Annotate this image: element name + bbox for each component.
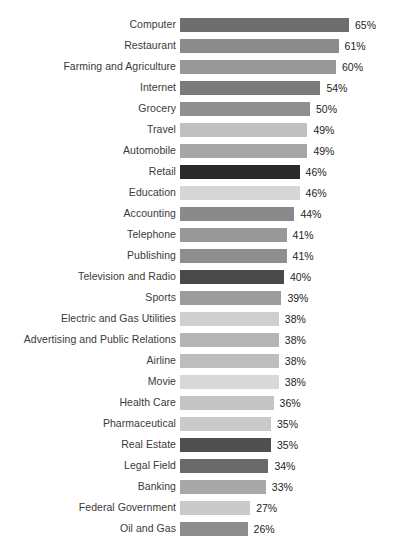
category-label: Grocery bbox=[0, 98, 180, 119]
value-label: 61% bbox=[339, 39, 366, 53]
bar-area: 65% bbox=[180, 14, 398, 35]
category-label: Automobile bbox=[0, 140, 180, 161]
chart-row: Automobile49% bbox=[0, 140, 398, 161]
bar bbox=[180, 396, 274, 410]
chart-row: Restaurant61% bbox=[0, 35, 398, 56]
value-label: 49% bbox=[307, 144, 334, 158]
category-label: Legal Field bbox=[0, 455, 180, 476]
chart-row: Accounting44% bbox=[0, 203, 398, 224]
bar bbox=[180, 522, 248, 536]
bar bbox=[180, 375, 279, 389]
value-label: 27% bbox=[250, 501, 277, 515]
bar bbox=[180, 165, 300, 179]
value-label: 44% bbox=[294, 207, 321, 221]
category-label: Oil and Gas bbox=[0, 518, 180, 539]
chart-row: Legal Field34% bbox=[0, 455, 398, 476]
category-label: Travel bbox=[0, 119, 180, 140]
value-label: 36% bbox=[274, 396, 301, 410]
value-label: 38% bbox=[279, 354, 306, 368]
chart-row: Federal Government27% bbox=[0, 497, 398, 518]
value-label: 35% bbox=[271, 417, 298, 431]
value-label: 49% bbox=[307, 123, 334, 137]
bar bbox=[180, 333, 279, 347]
bar bbox=[180, 81, 320, 95]
value-label: 41% bbox=[287, 228, 314, 242]
value-label: 33% bbox=[266, 480, 293, 494]
bar-area: 50% bbox=[180, 98, 398, 119]
bar-area: 35% bbox=[180, 413, 398, 434]
bar bbox=[180, 312, 279, 326]
bar-area: 41% bbox=[180, 245, 398, 266]
category-label: Airline bbox=[0, 350, 180, 371]
value-label: 50% bbox=[310, 102, 337, 116]
bar-area: 35% bbox=[180, 434, 398, 455]
chart-row: Grocery50% bbox=[0, 98, 398, 119]
category-label: Internet bbox=[0, 77, 180, 98]
bar bbox=[180, 60, 336, 74]
bar-area: 61% bbox=[180, 35, 398, 56]
bar bbox=[180, 417, 271, 431]
chart-row: Television and Radio40% bbox=[0, 266, 398, 287]
category-label: Advertising and Public Relations bbox=[0, 329, 180, 350]
chart-row: Telephone41% bbox=[0, 224, 398, 245]
value-label: 65% bbox=[349, 18, 376, 32]
category-label: Electric and Gas Utilities bbox=[0, 308, 180, 329]
bar-area: 39% bbox=[180, 287, 398, 308]
bar bbox=[180, 501, 250, 515]
category-label: Retail bbox=[0, 161, 180, 182]
chart-row: Airline38% bbox=[0, 350, 398, 371]
value-label: 34% bbox=[268, 459, 295, 473]
value-label: 46% bbox=[300, 186, 327, 200]
bar-area: 38% bbox=[180, 350, 398, 371]
category-label: Pharmaceutical bbox=[0, 413, 180, 434]
chart-row: Oil and Gas26% bbox=[0, 518, 398, 539]
chart-row: Movie38% bbox=[0, 371, 398, 392]
bar bbox=[180, 291, 281, 305]
bar bbox=[180, 123, 307, 137]
category-label: Education bbox=[0, 182, 180, 203]
chart-row: Travel49% bbox=[0, 119, 398, 140]
chart-row: Sports39% bbox=[0, 287, 398, 308]
bar-area: 27% bbox=[180, 497, 398, 518]
chart-row: Internet54% bbox=[0, 77, 398, 98]
value-label: 41% bbox=[287, 249, 314, 263]
category-label: Movie bbox=[0, 371, 180, 392]
value-label: 54% bbox=[320, 81, 347, 95]
bar-area: 40% bbox=[180, 266, 398, 287]
category-label: Publishing bbox=[0, 245, 180, 266]
value-label: 26% bbox=[248, 522, 275, 536]
bar bbox=[180, 144, 307, 158]
bar bbox=[180, 459, 268, 473]
bar-area: 26% bbox=[180, 518, 398, 539]
bar bbox=[180, 480, 266, 494]
bar-area: 38% bbox=[180, 308, 398, 329]
bar-area: 41% bbox=[180, 224, 398, 245]
bar-area: 46% bbox=[180, 182, 398, 203]
category-label: Banking bbox=[0, 476, 180, 497]
bar-area: 60% bbox=[180, 56, 398, 77]
category-label: Federal Government bbox=[0, 497, 180, 518]
category-label: Health Care bbox=[0, 392, 180, 413]
value-label: 38% bbox=[279, 375, 306, 389]
bar-area: 54% bbox=[180, 77, 398, 98]
bar bbox=[180, 207, 294, 221]
bar-area: 36% bbox=[180, 392, 398, 413]
chart-row: Retail46% bbox=[0, 161, 398, 182]
bar bbox=[180, 270, 284, 284]
chart-row: Computer65% bbox=[0, 14, 398, 35]
chart-row: Education46% bbox=[0, 182, 398, 203]
value-label: 38% bbox=[279, 333, 306, 347]
bar-area: 38% bbox=[180, 371, 398, 392]
category-label: Sports bbox=[0, 287, 180, 308]
bar bbox=[180, 249, 287, 263]
bar bbox=[180, 354, 279, 368]
category-label: Television and Radio bbox=[0, 266, 180, 287]
bar-area: 49% bbox=[180, 119, 398, 140]
chart-row: Real Estate35% bbox=[0, 434, 398, 455]
chart-row: Banking33% bbox=[0, 476, 398, 497]
bar bbox=[180, 39, 339, 53]
category-label: Telephone bbox=[0, 224, 180, 245]
value-label: 35% bbox=[271, 438, 298, 452]
chart-row: Farming and Agriculture60% bbox=[0, 56, 398, 77]
